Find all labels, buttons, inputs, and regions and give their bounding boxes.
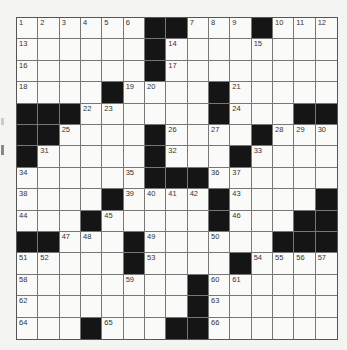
grid-cell[interactable] — [230, 318, 251, 339]
grid-cell[interactable]: 54 — [252, 253, 273, 274]
grid-cell[interactable] — [252, 296, 273, 317]
grid-cell[interactable]: 17 — [166, 61, 187, 82]
grid-cell[interactable]: 27 — [209, 125, 230, 146]
grid-cell[interactable]: 14 — [166, 39, 187, 60]
grid-cell[interactable] — [273, 104, 294, 125]
grid-cell[interactable] — [188, 146, 209, 167]
grid-cell[interactable] — [124, 125, 145, 146]
grid-cell[interactable] — [102, 253, 123, 274]
grid-cell[interactable] — [252, 232, 273, 253]
grid-cell[interactable]: 65 — [102, 318, 123, 339]
grid-cell[interactable] — [316, 39, 337, 60]
grid-cell[interactable] — [294, 189, 315, 210]
grid-cell[interactable]: 8 — [209, 18, 230, 39]
grid-cell[interactable] — [230, 296, 251, 317]
grid-cell[interactable] — [209, 61, 230, 82]
grid-cell[interactable]: 55 — [273, 253, 294, 274]
grid-cell[interactable] — [273, 318, 294, 339]
grid-cell[interactable]: 11 — [294, 18, 315, 39]
grid-cell[interactable] — [273, 168, 294, 189]
grid-cell[interactable]: 64 — [17, 318, 38, 339]
grid-cell[interactable]: 4 — [81, 18, 102, 39]
grid-cell[interactable] — [273, 275, 294, 296]
grid-cell[interactable] — [294, 39, 315, 60]
grid-cell[interactable] — [294, 82, 315, 103]
grid-cell[interactable]: 45 — [102, 211, 123, 232]
grid-cell[interactable] — [60, 211, 81, 232]
grid-cell[interactable]: 32 — [166, 146, 187, 167]
grid-cell[interactable]: 40 — [145, 189, 166, 210]
grid-cell[interactable] — [38, 275, 59, 296]
grid-cell[interactable] — [273, 211, 294, 232]
grid-cell[interactable] — [102, 232, 123, 253]
grid-cell[interactable]: 53 — [145, 253, 166, 274]
grid-cell[interactable] — [273, 61, 294, 82]
grid-cell[interactable] — [316, 146, 337, 167]
grid-cell[interactable] — [316, 82, 337, 103]
grid-cell[interactable] — [102, 146, 123, 167]
grid-cell[interactable]: 7 — [188, 18, 209, 39]
grid-cell[interactable] — [294, 168, 315, 189]
grid-cell[interactable] — [60, 296, 81, 317]
grid-cell[interactable] — [166, 296, 187, 317]
grid-cell[interactable]: 52 — [38, 253, 59, 274]
grid-cell[interactable] — [60, 82, 81, 103]
grid-cell[interactable]: 33 — [252, 146, 273, 167]
grid-cell[interactable]: 61 — [230, 275, 251, 296]
grid-cell[interactable] — [38, 61, 59, 82]
grid-cell[interactable] — [145, 318, 166, 339]
grid-cell[interactable] — [316, 275, 337, 296]
grid-cell[interactable]: 36 — [209, 168, 230, 189]
grid-cell[interactable] — [316, 296, 337, 317]
grid-cell[interactable] — [124, 211, 145, 232]
grid-cell[interactable] — [102, 125, 123, 146]
grid-cell[interactable] — [316, 318, 337, 339]
grid-cell[interactable]: 49 — [145, 232, 166, 253]
grid-cell[interactable] — [273, 296, 294, 317]
grid-cell[interactable] — [273, 39, 294, 60]
grid-cell[interactable] — [188, 82, 209, 103]
grid-cell[interactable] — [294, 275, 315, 296]
grid-cell[interactable] — [188, 61, 209, 82]
grid-cell[interactable] — [316, 168, 337, 189]
grid-cell[interactable] — [60, 189, 81, 210]
grid-cell[interactable]: 9 — [230, 18, 251, 39]
grid-cell[interactable]: 3 — [60, 18, 81, 39]
grid-cell[interactable]: 26 — [166, 125, 187, 146]
grid-cell[interactable]: 66 — [209, 318, 230, 339]
grid-cell[interactable] — [81, 39, 102, 60]
grid-cell[interactable] — [60, 39, 81, 60]
grid-cell[interactable]: 44 — [17, 211, 38, 232]
grid-cell[interactable] — [81, 82, 102, 103]
grid-cell[interactable] — [38, 296, 59, 317]
grid-cell[interactable] — [81, 275, 102, 296]
grid-cell[interactable] — [38, 211, 59, 232]
grid-cell[interactable] — [252, 275, 273, 296]
grid-cell[interactable]: 43 — [230, 189, 251, 210]
grid-cell[interactable]: 19 — [124, 82, 145, 103]
grid-cell[interactable]: 12 — [316, 18, 337, 39]
grid-cell[interactable] — [166, 232, 187, 253]
grid-cell[interactable]: 46 — [230, 211, 251, 232]
grid-cell[interactable] — [60, 275, 81, 296]
grid-cell[interactable] — [102, 168, 123, 189]
grid-cell[interactable]: 28 — [273, 125, 294, 146]
grid-cell[interactable] — [252, 82, 273, 103]
grid-cell[interactable] — [81, 168, 102, 189]
grid-cell[interactable] — [124, 104, 145, 125]
grid-cell[interactable] — [273, 146, 294, 167]
grid-cell[interactable]: 59 — [124, 275, 145, 296]
grid-cell[interactable]: 10 — [273, 18, 294, 39]
grid-cell[interactable] — [60, 318, 81, 339]
grid-cell[interactable] — [252, 61, 273, 82]
grid-cell[interactable] — [124, 296, 145, 317]
grid-cell[interactable] — [81, 61, 102, 82]
grid-cell[interactable] — [38, 168, 59, 189]
grid-cell[interactable]: 13 — [17, 39, 38, 60]
grid-cell[interactable]: 25 — [60, 125, 81, 146]
grid-cell[interactable] — [230, 39, 251, 60]
grid-cell[interactable] — [273, 189, 294, 210]
grid-cell[interactable] — [188, 104, 209, 125]
grid-cell[interactable]: 37 — [230, 168, 251, 189]
grid-cell[interactable] — [316, 61, 337, 82]
